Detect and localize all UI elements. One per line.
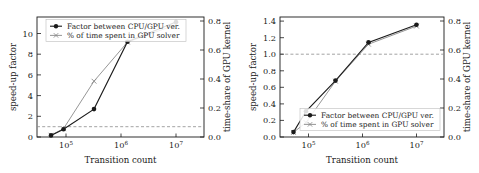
y-tick-label: 0.6 <box>262 82 275 92</box>
y-tick-label: 6 <box>28 70 33 80</box>
y-axis-title-right: time-share of GPU kernel <box>222 21 232 132</box>
y-tick-label-right: 0.8 <box>448 16 461 26</box>
y-axis-title-left: speed-up factor <box>248 42 258 111</box>
legend-label-speedup: Factor between CPU/GPU ver. <box>321 111 434 120</box>
legend-label-timeshare: % of time spent in GPU solver <box>67 31 180 40</box>
y-axis-title-right: time-share of GPU kernel <box>462 21 472 132</box>
x-tick-label: 106 <box>355 140 369 150</box>
right-chart-svg: 0.0 0.2 0.4 0.6 0.8 1.0 1.2 1.4 0.0 0.2 … <box>240 0 479 173</box>
y-tick-label: 0.4 <box>262 99 275 109</box>
x-tick-label: 106 <box>114 140 128 150</box>
x-tick-label: 107 <box>409 140 423 150</box>
x-tick-label: 105 <box>59 140 73 150</box>
y-tick-label: 10 <box>23 29 33 39</box>
legend-label-timeshare: % of time spent in GPU solver <box>321 120 434 129</box>
y-tick-label-right: 0.0 <box>208 132 221 142</box>
figure-container: 0 2 4 6 8 10 0.0 0.2 0.4 0.6 0.8 <box>0 0 479 173</box>
right-chart-panel: 0.0 0.2 0.4 0.6 0.8 1.0 1.2 1.4 0.0 0.2 … <box>240 0 479 173</box>
y-tick-label: 4 <box>28 91 33 101</box>
y-tick-label-right: 0.2 <box>208 103 221 113</box>
legend-marker-speedup <box>54 24 58 28</box>
left-chart-panel: 0 2 4 6 8 10 0.0 0.2 0.4 0.6 0.8 <box>0 0 240 173</box>
y-tick-label: 0.2 <box>262 115 275 125</box>
x-tick-label: 107 <box>169 140 183 150</box>
left-chart-svg: 0 2 4 6 8 10 0.0 0.2 0.4 0.6 0.8 <box>0 0 239 173</box>
y-tick-label-right: 0.4 <box>448 74 461 84</box>
y-tick-label: 0 <box>28 132 33 142</box>
y-tick-label: 0.0 <box>262 132 275 142</box>
legend-marker-speedup <box>307 113 311 117</box>
y-tick-label-right: 0.6 <box>448 45 461 55</box>
y-tick-label: 0.8 <box>262 66 275 76</box>
y-tick-label: 8 <box>28 49 33 59</box>
x-axis-title: Transition count <box>326 155 398 165</box>
y-tick-label-right: 0.8 <box>208 16 221 26</box>
y-tick-label-right: 0.0 <box>448 132 461 142</box>
y-tick-label: 2 <box>28 111 33 121</box>
x-axis-title: Transition count <box>85 155 157 165</box>
y-tick-label: 1.0 <box>262 49 275 59</box>
y-tick-label: 1.2 <box>262 33 275 43</box>
y-axis-title-left: speed-up factor <box>8 42 18 111</box>
legend-label-speedup: Factor between CPU/GPU ver. <box>67 22 180 31</box>
y-tick-label-right: 0.6 <box>208 45 221 55</box>
x-tick-label: 105 <box>301 140 315 150</box>
legend: Factor between CPU/GPU ver. % of time sp… <box>300 109 440 131</box>
y-tick-label: 1.4 <box>262 16 275 26</box>
legend: Factor between CPU/GPU ver. % of time sp… <box>46 20 186 42</box>
y-tick-label-right: 0.4 <box>208 74 221 84</box>
y-tick-label-right: 0.2 <box>448 103 461 113</box>
